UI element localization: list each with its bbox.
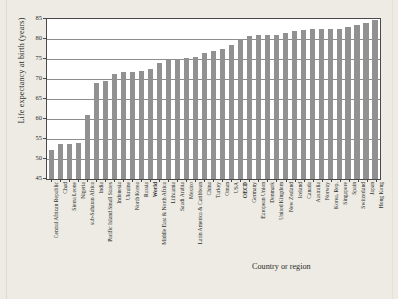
x-tick: Spain — [346, 182, 351, 267]
chart-page: 858075706560555045 Life expectancy at bi… — [0, 0, 398, 299]
bar — [256, 35, 261, 179]
x-tick: USA — [229, 182, 234, 267]
x-tick: India — [93, 182, 98, 267]
bar — [202, 53, 207, 179]
x-tick: Canada — [301, 182, 306, 267]
x-axis-labels: Central African RepublicChadSierra Leone… — [46, 182, 381, 267]
x-tick: Mexico — [183, 182, 188, 267]
y-axis-title: Life expectancy at birth (years) — [17, 0, 26, 146]
y-tick-label: 50 — [20, 155, 42, 162]
x-tick: Chad — [57, 182, 62, 267]
bar — [148, 69, 153, 179]
bar — [247, 36, 252, 179]
x-tick-mark — [304, 179, 305, 182]
bar — [94, 83, 99, 179]
page-right-edge — [392, 0, 393, 299]
bar — [310, 29, 315, 179]
x-tick: United Kingdom — [274, 182, 279, 267]
x-tick: Switzerland — [355, 182, 360, 267]
x-tick: Sierra Leone — [66, 182, 71, 267]
bar — [76, 143, 81, 179]
bar — [85, 115, 90, 179]
x-tick: Middle East & North Africa — [156, 182, 161, 267]
bar — [238, 39, 243, 179]
x-tick: Hong Kong — [373, 182, 378, 267]
page-left-edge — [6, 0, 7, 299]
bar — [184, 58, 189, 179]
bar — [345, 27, 350, 179]
x-tick: Russia — [138, 182, 143, 267]
bar — [67, 144, 72, 179]
bar — [121, 72, 126, 179]
x-tick: Central African Republic — [48, 182, 53, 267]
x-tick: Oman — [220, 182, 225, 267]
bar — [363, 23, 368, 179]
bar — [274, 35, 279, 179]
bar-series — [47, 19, 380, 179]
x-tick-mark — [349, 179, 350, 182]
x-tick: Latin America & Caribbean — [193, 182, 198, 267]
y-tick-label: 45 — [20, 175, 42, 182]
x-tick: Denmark — [265, 182, 270, 267]
bar — [130, 72, 135, 179]
bar — [265, 35, 270, 179]
x-axis-title: Country or region — [252, 262, 311, 271]
x-tick: Nigeria — [75, 182, 80, 267]
x-tick: European Union — [256, 182, 261, 267]
x-tick: Iceland — [292, 182, 297, 267]
bar — [319, 29, 324, 179]
bar — [301, 30, 306, 179]
x-tick-mark — [51, 179, 52, 182]
x-tick: China — [202, 182, 207, 267]
x-tick-mark — [69, 179, 70, 182]
x-tick: Norway — [319, 182, 324, 267]
x-tick: North Korea — [129, 182, 134, 267]
x-tick: Korea, Rep. — [328, 182, 333, 267]
bar — [139, 71, 144, 179]
x-tick: New Zealand — [283, 182, 288, 267]
bar — [103, 81, 108, 179]
x-tick-label: Hong Kong — [378, 182, 384, 208]
x-tick: World — [147, 182, 152, 267]
x-tick: Singapore — [337, 182, 342, 267]
bar — [283, 33, 288, 179]
x-tick: sub-Saharan Africa — [84, 182, 89, 267]
x-tick: Saudi Arabia — [174, 182, 179, 267]
bar — [175, 59, 180, 179]
bar — [292, 31, 297, 179]
x-tick: Pacific Island Small States — [102, 182, 107, 267]
bar — [58, 144, 63, 179]
x-tick-mark — [340, 179, 341, 182]
x-tick: Indonesia — [111, 182, 116, 267]
bar — [166, 60, 171, 179]
bar — [211, 51, 216, 179]
x-tick-mark — [313, 179, 314, 182]
x-tick: Australia — [310, 182, 315, 267]
bar — [328, 29, 333, 179]
bar — [49, 150, 54, 179]
bar — [220, 49, 225, 179]
bar — [112, 74, 117, 179]
x-tick: Japan — [364, 182, 369, 267]
bar — [372, 20, 377, 179]
x-tick: OECD — [238, 182, 243, 267]
x-tick-mark — [286, 179, 287, 182]
x-tick: Ukraine — [120, 182, 125, 267]
x-tick-mark — [295, 179, 296, 182]
bar — [337, 29, 342, 179]
x-tick-mark — [358, 179, 359, 182]
bar — [193, 57, 198, 179]
x-tick-mark — [60, 179, 61, 182]
plot-area — [46, 18, 381, 180]
x-tick-mark — [331, 179, 332, 182]
x-tick: Turkey — [211, 182, 216, 267]
x-tick-mark — [322, 179, 323, 182]
x-tick: Germany — [247, 182, 252, 267]
bar — [229, 45, 234, 179]
x-tick: Lithuania — [165, 182, 170, 267]
bar — [157, 63, 162, 179]
bar — [354, 25, 359, 179]
